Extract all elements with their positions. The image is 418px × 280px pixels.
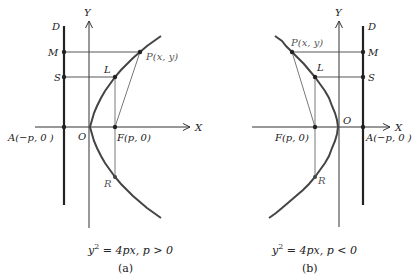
point-S-a bbox=[62, 75, 66, 79]
point-A-a bbox=[62, 125, 66, 129]
point-M-a bbox=[62, 50, 66, 54]
label-R-a: R bbox=[103, 178, 112, 189]
label-M-a: M bbox=[47, 47, 59, 58]
label-X-a: X bbox=[194, 122, 203, 133]
point-P-a bbox=[138, 50, 142, 54]
label-A-a: A(−p, 0 ) bbox=[7, 132, 54, 143]
caption-a: (a) bbox=[118, 262, 133, 275]
caption-b: (b) bbox=[302, 262, 318, 275]
point-M-b bbox=[361, 50, 365, 54]
label-F-a: F(p, 0) bbox=[116, 132, 151, 143]
label-L-a: L bbox=[103, 64, 111, 75]
point-S-b bbox=[361, 75, 365, 79]
point-R-a bbox=[113, 175, 117, 179]
equation-b: y2 = 4px, p < 0 bbox=[271, 242, 357, 257]
figure-a: Y X D M S A(−p, 0 ) O F(p, 0) P(x, y) L … bbox=[7, 7, 203, 275]
point-F-b bbox=[313, 125, 317, 129]
point-L-a bbox=[113, 75, 117, 79]
point-A-b bbox=[361, 125, 365, 129]
parabola-diagrams: Y X D M S A(−p, 0 ) O F(p, 0) P(x, y) L … bbox=[0, 0, 418, 280]
point-F-a bbox=[113, 125, 117, 129]
label-L-b: L bbox=[316, 62, 324, 73]
label-D-a: D bbox=[51, 21, 60, 32]
label-S-b: S bbox=[368, 72, 375, 83]
label-F-b: F(p, 0) bbox=[274, 132, 309, 143]
point-L-b bbox=[313, 75, 317, 79]
point-R-b bbox=[313, 175, 317, 179]
label-A-b: A(−p, 0 ) bbox=[365, 132, 412, 143]
label-Y-a: Y bbox=[84, 7, 92, 18]
label-M-b: M bbox=[367, 47, 379, 58]
label-P-a: P(x, y) bbox=[145, 51, 178, 62]
label-O-b: O bbox=[343, 115, 351, 126]
label-P-b: P(x, y) bbox=[290, 37, 323, 48]
label-S-a: S bbox=[54, 72, 61, 83]
point-P-b bbox=[290, 50, 294, 54]
parabola-curve-a bbox=[90, 77, 115, 127]
label-D-b: D bbox=[367, 21, 376, 32]
label-Y-b: Y bbox=[335, 7, 343, 18]
figure-b: Y X D M S A(−p, 0 ) O F(p, 0) P(x, y) L … bbox=[252, 7, 412, 275]
label-R-b: R bbox=[317, 175, 326, 186]
label-O-a: O bbox=[78, 131, 86, 142]
equation-a: y2 = 4px, p > 0 bbox=[87, 242, 173, 257]
